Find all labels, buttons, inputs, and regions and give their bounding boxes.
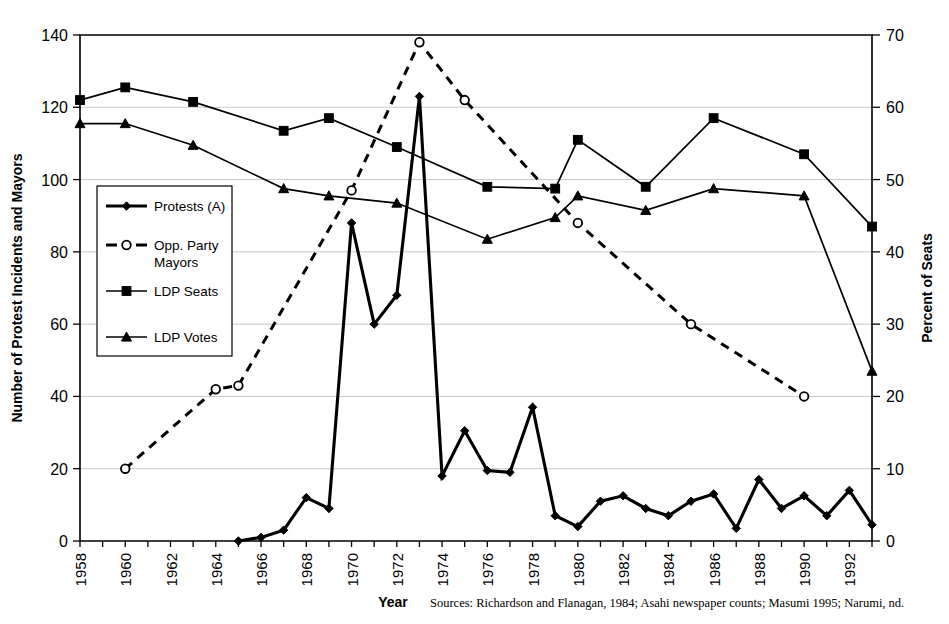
data-point-marker (573, 135, 582, 144)
x-tick-label: 1988 (751, 553, 768, 586)
y2-axis-ticks: 010203040506070 (872, 27, 904, 550)
data-point-marker (189, 97, 198, 106)
data-point-marker (121, 83, 130, 92)
data-point-marker (800, 392, 809, 401)
data-point-marker (800, 150, 809, 159)
x-tick-label: 1966 (253, 553, 270, 586)
x-tick-label: 1982 (615, 553, 632, 586)
y2-tick-label: 60 (886, 99, 904, 116)
series-line (238, 96, 872, 541)
x-tick-label: 1970 (344, 553, 361, 586)
data-point-marker (574, 219, 583, 228)
y2-tick-label: 20 (886, 388, 904, 405)
x-tick-label: 1980 (570, 553, 587, 586)
data-point-marker (122, 287, 131, 296)
data-point-marker (867, 366, 877, 375)
x-tick-label: 1990 (796, 553, 813, 586)
data-point-marker (551, 184, 560, 193)
source-note: Sources: Richardson and Flanagan, 1984; … (430, 596, 904, 610)
data-point-marker (122, 241, 131, 250)
chart-legend: Protests (A)Opp. PartyMayorsLDP SeatsLDP… (97, 186, 232, 356)
data-point-marker (709, 114, 718, 123)
y2-tick-label: 0 (886, 533, 895, 550)
y2-tick-label: 70 (886, 27, 904, 44)
data-point-marker (279, 126, 288, 135)
data-point-marker (234, 381, 243, 390)
data-point-marker (483, 182, 492, 191)
y-tick-label: 100 (41, 172, 68, 189)
x-tick-label: 1992 (841, 553, 858, 586)
y-axis-ticks: 020406080100120140 (41, 27, 80, 550)
legend-label: LDP Seats (154, 284, 219, 299)
x-axis-label: Year (378, 594, 408, 610)
x-tick-label: 1960 (117, 553, 134, 586)
data-point-marker (279, 184, 289, 193)
x-tick-label: 1978 (525, 553, 542, 586)
data-point-marker (211, 385, 220, 394)
legend-label: Protests (A) (154, 199, 225, 214)
data-point-marker (415, 92, 423, 100)
data-point-marker (347, 186, 356, 195)
x-tick-label: 1972 (389, 553, 406, 586)
x-tick-label: 1986 (706, 553, 723, 586)
y-tick-label: 60 (50, 316, 68, 333)
y-tick-label: 80 (50, 244, 68, 261)
data-point-marker (641, 182, 650, 191)
y2-tick-label: 10 (886, 461, 904, 478)
legend-label: Opp. Party (154, 238, 219, 253)
x-tick-label: 1976 (479, 553, 496, 586)
x-tick-label: 1964 (208, 553, 225, 586)
y2-tick-label: 30 (886, 316, 904, 333)
chart-figure: 020406080100120140 010203040506070 19581… (0, 0, 949, 624)
data-point-marker (347, 219, 355, 227)
y-tick-label: 40 (50, 388, 68, 405)
data-point-marker (528, 403, 536, 411)
legend-label-line2: Mayors (154, 255, 199, 270)
data-point-marker (415, 38, 424, 47)
y-axis-label: Number of Protest Incidents and Mayors (9, 153, 25, 422)
data-point-marker (234, 537, 242, 545)
x-tick-label: 1968 (298, 553, 315, 586)
data-point-marker (121, 464, 130, 473)
y-tick-label: 20 (50, 461, 68, 478)
data-point-marker (76, 96, 85, 105)
y-tick-label: 140 (41, 27, 68, 44)
y-tick-label: 0 (59, 533, 68, 550)
data-point-marker (325, 114, 334, 123)
data-point-marker (573, 191, 583, 200)
data-point-marker (687, 320, 696, 329)
data-point-marker (868, 222, 877, 231)
x-tick-label: 1974 (434, 553, 451, 586)
x-axis-ticks: 1958196019621964196619681970197219741976… (72, 541, 872, 586)
chart-canvas: 020406080100120140 010203040506070 19581… (0, 0, 949, 624)
x-tick-label: 1958 (72, 553, 89, 586)
series-protests-a (234, 92, 876, 545)
y2-axis-label: Percent of Seats (919, 233, 935, 343)
data-point-marker (460, 96, 469, 105)
y-tick-label: 120 (41, 99, 68, 116)
y2-tick-label: 40 (886, 244, 904, 261)
y2-tick-label: 50 (886, 172, 904, 189)
x-tick-label: 1962 (163, 553, 180, 586)
x-tick-label: 1984 (660, 553, 677, 586)
data-point-marker (392, 143, 401, 152)
data-point-marker (506, 468, 514, 476)
legend-label: LDP Votes (154, 330, 218, 345)
